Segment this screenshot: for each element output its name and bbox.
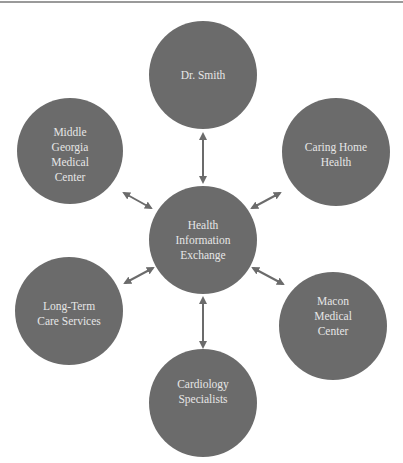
svg-text:Care Services: Care Services [37, 315, 101, 327]
svg-text:Cardiology: Cardiology [177, 378, 229, 391]
svg-text:Exchange: Exchange [180, 249, 225, 262]
edge-hie-long-term [125, 268, 153, 283]
svg-text:Dr. Smith: Dr. Smith [181, 69, 226, 81]
hub-spoke-diagram: Dr. Smith Middle Georgia Medical Center … [0, 0, 403, 463]
svg-text:Georgia: Georgia [52, 141, 89, 154]
node-health-information-exchange: Health Information Exchange [149, 186, 257, 294]
node-long-term-care-services: Long-Term Care Services [15, 257, 123, 365]
edge-hie-macon [253, 268, 283, 284]
svg-text:Health: Health [188, 219, 219, 231]
svg-text:Center: Center [318, 325, 349, 337]
edge-hie-caring-home [252, 193, 280, 208]
svg-text:Information: Information [176, 234, 231, 246]
svg-text:Middle: Middle [53, 126, 86, 138]
svg-text:Specialists: Specialists [178, 393, 228, 406]
node-dr-smith: Dr. Smith [149, 21, 257, 129]
edge-hie-middle-georgia [124, 193, 151, 208]
svg-text:Long-Term: Long-Term [43, 300, 95, 313]
svg-text:Caring Home: Caring Home [305, 141, 367, 154]
node-macon-medical-center: Macon Medical Center [279, 272, 387, 380]
svg-text:Health: Health [321, 156, 352, 168]
svg-text:Medical: Medical [314, 310, 352, 322]
node-caring-home-health: Caring Home Health [282, 98, 390, 206]
svg-text:Medical: Medical [51, 156, 89, 168]
node-middle-georgia-medical-center: Middle Georgia Medical Center [17, 98, 123, 204]
node-cardiology-specialists: Cardiology Specialists [149, 349, 257, 457]
svg-text:Macon: Macon [317, 295, 349, 307]
svg-text:Center: Center [55, 171, 86, 183]
